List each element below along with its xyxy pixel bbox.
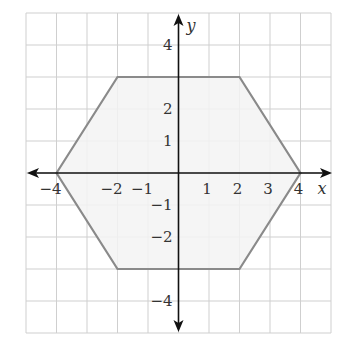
x-tick-label: 3 — [263, 180, 273, 198]
y-tick-label: 4 — [163, 36, 173, 54]
x-axis-label: x — [318, 179, 327, 198]
x-tick-label: 4 — [294, 180, 304, 198]
y-tick-label: 2 — [163, 100, 173, 118]
x-tick-label: −2 — [100, 180, 122, 198]
y-axis-label: y — [186, 16, 197, 35]
y-tick-label: −2 — [150, 228, 172, 246]
coordinate-plane: −4−2−11234 421−1−2−4 x y — [0, 0, 337, 351]
y-tick-label: −4 — [150, 292, 172, 310]
axes — [27, 14, 332, 332]
y-tick-label: 1 — [163, 132, 173, 150]
y-tick-label: −1 — [150, 196, 172, 214]
x-tick-label: −4 — [39, 180, 61, 198]
x-tick-label: 1 — [202, 180, 212, 198]
x-tick-label: 2 — [233, 180, 243, 198]
